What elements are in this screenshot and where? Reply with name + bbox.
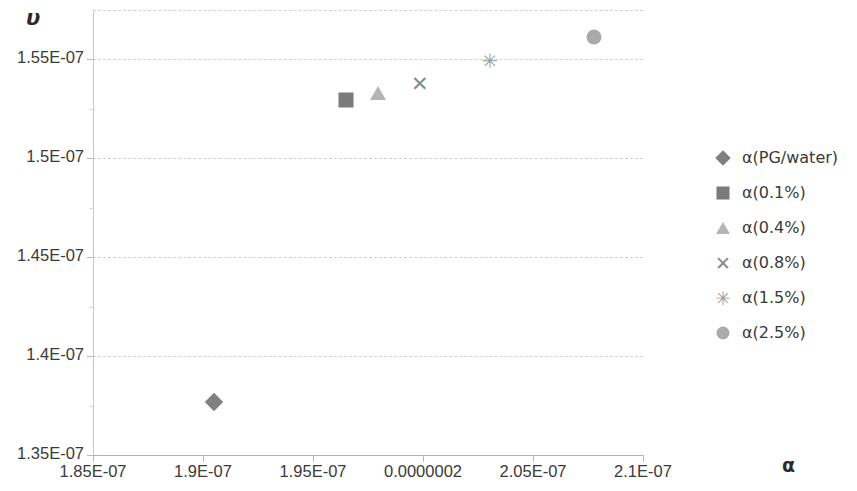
triangle-icon	[716, 222, 730, 234]
x-tick-label: 0.0000002	[384, 462, 462, 481]
legend-label: α(0.1%)	[742, 183, 806, 202]
data-point-star[interactable]: ✳	[481, 51, 498, 71]
x-tick-label: 1.95E-07	[280, 462, 347, 481]
legend-label: α(0.4%)	[742, 218, 806, 237]
legend-item[interactable]: α(0.4%)	[712, 210, 838, 245]
data-point-triangle[interactable]	[370, 86, 386, 100]
x-tick-label: 1.9E-07	[174, 462, 232, 481]
y-tick-label: 1.5E-07	[0, 147, 84, 166]
gridline-top	[93, 10, 643, 11]
legend-item[interactable]: α(2.5%)	[712, 315, 838, 350]
scatter-chart: υ α 1.35E-071.4E-071.45E-071.5E-071.55E-…	[0, 0, 857, 491]
data-point-circle[interactable]	[586, 30, 601, 45]
gridline-y	[93, 257, 643, 258]
plot-area	[93, 10, 643, 455]
y-tick-label: 1.35E-07	[0, 444, 84, 463]
legend-marker	[712, 182, 734, 204]
x-tick-label: 1.85E-07	[60, 462, 127, 481]
legend-marker	[712, 322, 734, 344]
x-axis-title: α	[782, 454, 795, 476]
x-tick-mark	[643, 455, 644, 462]
legend-label: α(0.8%)	[742, 253, 806, 272]
legend-item[interactable]: α(0.1%)	[712, 175, 838, 210]
legend-label: α(2.5%)	[742, 323, 806, 342]
y-minor-tick-mark	[89, 307, 93, 308]
y-minor-tick-mark	[89, 208, 93, 209]
y-axis-tick-labels: 1.35E-071.4E-071.45E-071.5E-071.55E-07	[0, 0, 84, 491]
x-axis-line	[93, 455, 643, 456]
x-tick-mark	[533, 455, 534, 462]
y-tick-mark	[87, 356, 93, 357]
legend-item[interactable]: ✳α(1.5%)	[712, 280, 838, 315]
diamond-icon	[715, 150, 731, 166]
legend-item[interactable]: α(PG/water)	[712, 140, 838, 175]
legend-label: α(1.5%)	[742, 288, 806, 307]
x-tick-mark	[203, 455, 204, 462]
chart-legend: α(PG/water)α(0.1%)α(0.4%)✕α(0.8%)✳α(1.5%…	[712, 140, 838, 350]
x-tick-label: 2.1E-07	[614, 462, 672, 481]
y-minor-tick-mark	[89, 406, 93, 407]
star-icon: ✳	[715, 288, 731, 307]
gridline-y	[93, 158, 643, 159]
y-tick-label: 1.4E-07	[0, 345, 84, 364]
x-tick-label: 2.05E-07	[500, 462, 567, 481]
legend-marker	[712, 147, 734, 169]
gridline-y	[93, 59, 643, 60]
legend-marker: ✕	[712, 252, 734, 274]
square-icon	[717, 186, 730, 199]
legend-item[interactable]: ✕α(0.8%)	[712, 245, 838, 280]
cross-icon: ✕	[715, 253, 731, 272]
legend-marker	[712, 217, 734, 239]
y-tick-label: 1.55E-07	[0, 48, 84, 67]
y-axis-line	[93, 10, 94, 455]
data-point-square[interactable]	[339, 92, 354, 107]
data-point-cross[interactable]: ✕	[411, 73, 429, 94]
y-tick-mark	[87, 158, 93, 159]
x-tick-mark	[423, 455, 424, 462]
legend-marker: ✳	[712, 287, 734, 309]
y-tick-label: 1.45E-07	[0, 246, 84, 265]
legend-label: α(PG/water)	[742, 148, 838, 167]
y-minor-tick-mark	[89, 109, 93, 110]
y-tick-mark	[87, 257, 93, 258]
x-tick-mark	[93, 455, 94, 462]
y-tick-mark	[87, 59, 93, 60]
x-tick-mark	[313, 455, 314, 462]
gridline-y	[93, 356, 643, 357]
circle-icon	[717, 326, 730, 339]
